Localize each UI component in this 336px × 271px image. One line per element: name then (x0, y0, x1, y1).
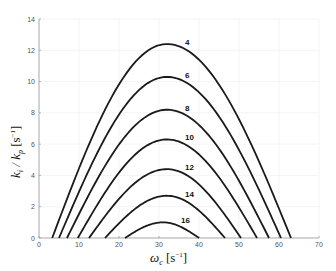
y-tick-label: 0 (31, 235, 35, 242)
curve-label: 12 (185, 163, 194, 172)
x-tick-label: 70 (315, 241, 323, 248)
x-tick-label: 10 (75, 241, 83, 248)
curve-label: 8 (185, 104, 190, 113)
x-tick-label: 50 (235, 241, 243, 248)
y-tick-label: 12 (27, 47, 35, 54)
y-axis-label: ki / kp [s−1] (8, 126, 25, 178)
x-tick-label: 20 (115, 241, 123, 248)
y-tick-label: 14 (27, 16, 35, 23)
curve-labels: 46810121416 (181, 38, 194, 225)
curve-label: 6 (185, 71, 190, 80)
curve-label: 4 (185, 38, 190, 47)
y-tick-label: 10 (27, 78, 35, 85)
x-tick-label: 40 (195, 241, 203, 248)
curve-4 (52, 44, 291, 238)
y-tick-label: 8 (31, 109, 35, 116)
x-axis-label: ωc [s−1] (150, 250, 187, 267)
y-tick-label: 2 (31, 203, 35, 210)
curve-label: 16 (181, 216, 190, 225)
chart: 01020304050607002468101214 46810121416 ω… (0, 0, 336, 271)
curves (52, 44, 291, 238)
y-tick-label: 4 (31, 172, 35, 179)
x-tick-label: 60 (275, 241, 283, 248)
y-tick-label: 6 (31, 141, 35, 148)
curve-label: 14 (185, 190, 194, 199)
x-tick-label: 30 (155, 241, 163, 248)
curve-12 (89, 169, 241, 238)
curve-label: 10 (185, 133, 194, 142)
x-tick-label: 0 (37, 241, 41, 248)
curve-14 (105, 196, 225, 238)
